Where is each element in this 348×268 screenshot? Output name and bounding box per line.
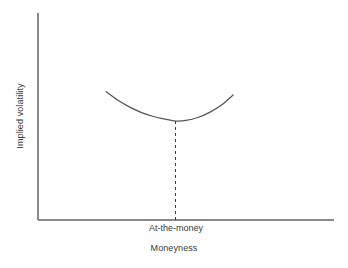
x-axis-title: Moneyness	[0, 244, 348, 253]
at-the-money-tick-label: At-the-money	[0, 224, 348, 233]
implied-volatility-curve	[106, 92, 233, 121]
volatility-smile-chart: At-the-money Moneyness Implied volatilit…	[0, 0, 348, 268]
y-axis-title: Implied volatility	[16, 56, 25, 176]
